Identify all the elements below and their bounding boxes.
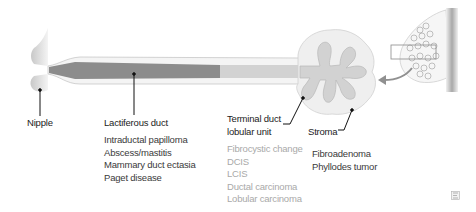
condition-item: Fibrocystic change <box>227 143 303 156</box>
label-lactiferous-duct: Lactiferous duct <box>104 117 168 128</box>
lactiferous-duct-conditions: Intraductal papilloma Abscess/mastitis M… <box>104 134 196 184</box>
nipple-shape <box>30 28 48 92</box>
condition-item: Lobular carcinoma <box>227 193 303 206</box>
condition-item: Intraductal papilloma <box>104 134 196 147</box>
lactiferous-duct-light <box>220 65 300 78</box>
breast-inset <box>391 8 458 92</box>
condition-item: DCIS <box>227 156 303 169</box>
condition-item: Mammary duct ectasia <box>104 159 196 172</box>
figure-badge-icon <box>451 191 460 200</box>
condition-item: LCIS <box>227 168 303 181</box>
label-tdlu-line2: lobular unit <box>227 126 271 137</box>
condition-item: Abscess/mastitis <box>104 147 196 160</box>
label-nipple: Nipple <box>27 117 53 128</box>
stroma-conditions: Fibroadenoma Phyllodes tumor <box>312 148 377 173</box>
label-stroma: Stroma <box>308 126 337 137</box>
condition-item: Phyllodes tumor <box>312 161 377 174</box>
condition-item: Paget disease <box>104 172 196 185</box>
label-tdlu-line1: Terminal duct <box>227 113 281 124</box>
tdlu-conditions: Fibrocystic change DCIS LCIS Ductal carc… <box>227 143 303 206</box>
condition-item: Fibroadenoma <box>312 148 377 161</box>
condition-item: Ductal carcinoma <box>227 181 303 194</box>
